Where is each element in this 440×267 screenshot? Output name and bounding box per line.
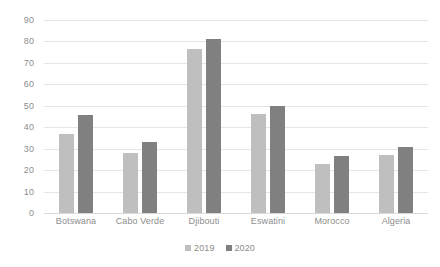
- x-axis-tick-label: Eswatini: [236, 216, 300, 226]
- y-axis-tick-label: 20: [24, 165, 34, 175]
- y-axis-tick-label: 30: [24, 144, 34, 154]
- bar[interactable]: [142, 142, 157, 213]
- y-axis-tick-label: 90: [24, 15, 34, 25]
- x-axis: BotswanaCabo VerdeDjiboutiEswatiniMorocc…: [44, 216, 428, 232]
- legend-label: 2019: [194, 243, 214, 253]
- bar[interactable]: [187, 49, 202, 213]
- y-axis: 9080706050403020100: [0, 20, 40, 213]
- bar-group: [108, 20, 172, 213]
- bar-group: [364, 20, 428, 213]
- chart-legend: 20192020: [0, 243, 440, 253]
- bar[interactable]: [334, 156, 349, 213]
- bar-group: [300, 20, 364, 213]
- y-axis-tick-label: 10: [24, 187, 34, 197]
- bar[interactable]: [78, 115, 93, 213]
- bar-chart: 9080706050403020100 BotswanaCabo VerdeDj…: [0, 0, 440, 267]
- y-axis-tick-label: 40: [24, 122, 34, 132]
- bar[interactable]: [251, 114, 266, 213]
- bar[interactable]: [123, 153, 138, 213]
- legend-swatch-icon: [185, 245, 191, 251]
- bar[interactable]: [270, 106, 285, 213]
- plot-area: [44, 20, 428, 213]
- y-axis-tick-label: 60: [24, 79, 34, 89]
- y-axis-tick-label: 0: [29, 208, 34, 218]
- bar[interactable]: [398, 147, 413, 213]
- axis-baseline: [44, 213, 428, 214]
- y-axis-tick-label: 50: [24, 101, 34, 111]
- legend-item[interactable]: 2019: [185, 243, 214, 253]
- x-axis-tick-label: Morocco: [300, 216, 364, 226]
- x-axis-tick-label: Botswana: [44, 216, 108, 226]
- bar-group: [236, 20, 300, 213]
- bar[interactable]: [315, 164, 330, 213]
- legend-item[interactable]: 2020: [226, 243, 255, 253]
- bar-groups: [44, 20, 428, 213]
- y-axis-tick-label: 70: [24, 58, 34, 68]
- y-axis-tick-label: 80: [24, 36, 34, 46]
- x-axis-tick-label: Algeria: [364, 216, 428, 226]
- legend-swatch-icon: [226, 245, 232, 251]
- x-axis-tick-label: Cabo Verde: [108, 216, 172, 226]
- bar[interactable]: [379, 155, 394, 213]
- bar[interactable]: [206, 39, 221, 213]
- bar[interactable]: [59, 134, 74, 213]
- x-axis-tick-label: Djibouti: [172, 216, 236, 226]
- legend-label: 2020: [235, 243, 255, 253]
- bar-group: [172, 20, 236, 213]
- bar-group: [44, 20, 108, 213]
